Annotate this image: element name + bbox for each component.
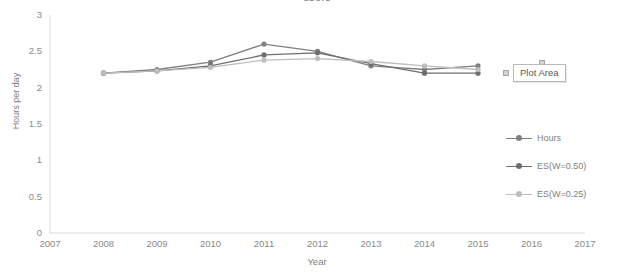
legend-label: ES(W=0.25) <box>537 189 586 199</box>
data-point <box>208 65 213 70</box>
data-point <box>422 71 427 76</box>
data-point <box>315 56 320 61</box>
legend-marker-icon <box>506 133 532 143</box>
data-point <box>315 50 320 55</box>
data-point <box>261 41 266 46</box>
data-point <box>101 71 106 76</box>
legend-label: ES(W=0.50) <box>537 161 586 171</box>
series-line <box>104 53 479 73</box>
series-line <box>104 44 479 73</box>
legend-dot <box>516 191 522 197</box>
legend-item-3[interactable]: ES(W=0.25) <box>506 180 616 208</box>
series-line <box>104 59 479 74</box>
legend-dot <box>516 163 522 169</box>
legend-item-1[interactable]: Hours <box>506 124 616 152</box>
data-point <box>475 67 480 72</box>
legend-item-2[interactable]: ES(W=0.50) <box>506 152 616 180</box>
legend-dot <box>516 135 522 141</box>
legend-marker-icon <box>506 161 532 171</box>
data-point <box>422 63 427 68</box>
plot-area-tooltip: Plot Area <box>513 64 566 82</box>
data-point <box>261 52 266 57</box>
chart-legend: HoursES(W=0.50)ES(W=0.25) <box>506 124 616 208</box>
data-point <box>154 68 159 73</box>
legend-marker-icon <box>506 189 532 199</box>
legend-label: Hours <box>537 133 561 143</box>
chart-container: users Hours per day Year 00.511.522.53 2… <box>0 0 634 278</box>
data-point <box>368 59 373 64</box>
data-point <box>261 57 266 62</box>
